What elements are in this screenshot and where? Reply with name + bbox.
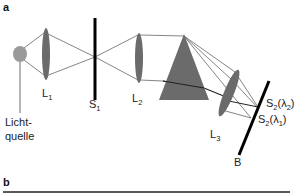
- label-s2-lambda2: S2(λ2): [266, 97, 295, 112]
- panel-label-a: a: [3, 1, 10, 13]
- lens-l3-icon: [215, 68, 243, 118]
- spectrometer-diagram: a L1 S1 L2 L3: [0, 0, 303, 193]
- light-source-icon: [13, 46, 27, 62]
- label-light-source-line1: Licht-: [5, 116, 32, 128]
- label-l1: L1: [42, 87, 52, 102]
- prism-icon: [159, 34, 209, 100]
- lens-l1-icon: [42, 28, 50, 80]
- label-screen-b: B: [234, 156, 241, 168]
- label-s2-lambda1: S2(λ1): [258, 113, 287, 128]
- label-l3: L3: [210, 128, 220, 143]
- panel-label-b: b: [3, 176, 10, 188]
- label-light-source-line2: quelle: [5, 130, 34, 142]
- label-l2: L2: [132, 92, 142, 107]
- lens-l2-icon: [135, 33, 143, 83]
- label-s1: S1: [89, 98, 101, 113]
